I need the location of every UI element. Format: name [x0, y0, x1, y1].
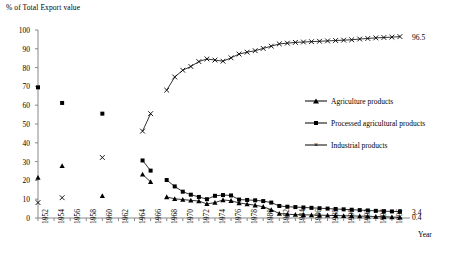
y-tick-label: 20 — [8, 176, 30, 185]
chart-root: % of Total Export value 0102030405060708… — [0, 0, 450, 261]
x-tick-label: 1968 — [170, 209, 179, 224]
x-tick-label: 1954 — [57, 209, 66, 224]
x-axis-title: Year — [418, 230, 432, 239]
legend-triangle-icon — [313, 99, 319, 104]
legend-square-icon — [314, 121, 318, 125]
y-tick-label: 50 — [8, 120, 30, 129]
y-tick-label: 70 — [8, 82, 30, 91]
x-tick-label: 1962 — [121, 209, 130, 224]
x-tick-label: 1976 — [234, 209, 243, 224]
legend-label: Processed agricultural products — [331, 119, 425, 128]
x-tick-label: 1960 — [105, 209, 114, 224]
y-tick-label: 80 — [8, 63, 30, 72]
x-tick-label: 1978 — [250, 209, 259, 224]
x-tick-label: 1984 — [298, 209, 307, 224]
x-tick-label: 1992 — [363, 209, 372, 224]
series-end-label: 0.4 — [412, 213, 421, 222]
x-tick-label: 1966 — [154, 209, 163, 224]
y-tick-label: 10 — [8, 195, 30, 204]
x-tick-label: 1996 — [395, 209, 404, 224]
x-tick-label: 1970 — [186, 209, 195, 224]
x-tick-label: 1952 — [41, 209, 50, 224]
y-tick-label: 90 — [8, 44, 30, 53]
series-end-label: 96.5 — [412, 32, 425, 41]
x-tick-label: 1956 — [73, 209, 82, 224]
x-tick-label: 1972 — [202, 209, 211, 224]
x-tick-label: 1958 — [89, 209, 98, 224]
x-tick-label: 1980 — [266, 209, 275, 224]
x-tick-label: 1986 — [314, 209, 323, 224]
y-tick-label: 60 — [8, 101, 30, 110]
x-tick-label: 1994 — [379, 209, 388, 224]
x-tick-label: 1988 — [331, 209, 340, 224]
x-tick-label: 1974 — [218, 209, 227, 224]
legend-item[interactable]: ×Industrial products — [305, 140, 445, 150]
y-tick-label: 30 — [8, 157, 30, 166]
x-tick-label: 1982 — [282, 209, 291, 224]
legend-item[interactable]: Processed agricultural products — [305, 118, 445, 128]
y-tick-label: 0 — [8, 214, 30, 223]
y-tick-label: 100 — [8, 26, 30, 35]
legend-label: Agriculture products — [331, 97, 393, 106]
legend-cross-icon: × — [314, 143, 318, 147]
legend-item[interactable]: Agriculture products — [305, 96, 445, 106]
x-tick-label: 1964 — [138, 209, 147, 224]
x-tick-label: 1990 — [347, 209, 356, 224]
y-tick-label: 40 — [8, 138, 30, 147]
legend-label: Industrial products — [331, 141, 387, 150]
